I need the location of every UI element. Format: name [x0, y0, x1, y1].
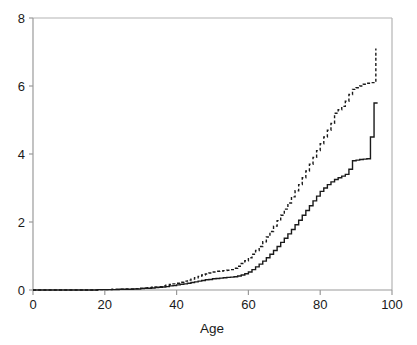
- y-tick-label-4: 4: [18, 147, 25, 162]
- chart-figure: 02468 020406080100 Age: [0, 0, 417, 345]
- y-tick-label-0: 0: [18, 283, 25, 298]
- plot-frame: [33, 18, 392, 290]
- x-tick-label-60: 60: [241, 297, 255, 312]
- x-tick-label-20: 20: [98, 297, 112, 312]
- y-axis-ticks: 02468: [18, 11, 33, 298]
- series-solid-curve: [33, 103, 378, 290]
- data-series-layer: [33, 49, 378, 290]
- cumulative-hazard-plot: 02468 020406080100 Age: [0, 0, 417, 345]
- y-tick-label-2: 2: [18, 215, 25, 230]
- y-tick-label-8: 8: [18, 11, 25, 26]
- x-axis-ticks: 020406080100: [29, 290, 402, 312]
- x-axis-title: Age: [200, 321, 224, 336]
- x-tick-label-80: 80: [313, 297, 327, 312]
- x-tick-label-0: 0: [29, 297, 36, 312]
- series-dashed-curve: [33, 49, 376, 290]
- x-tick-label-40: 40: [169, 297, 183, 312]
- x-tick-label-100: 100: [381, 297, 403, 312]
- y-tick-label-6: 6: [18, 79, 25, 94]
